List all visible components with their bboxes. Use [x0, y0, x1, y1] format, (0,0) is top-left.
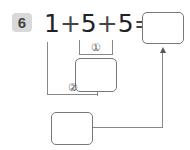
- bracket-2-bottom: [47, 94, 98, 95]
- bracket-2-left: [47, 42, 48, 95]
- operand-2: 5: [81, 9, 97, 38]
- step-2-result-box[interactable]: [51, 112, 93, 145]
- problem-number-badge: 6: [12, 13, 32, 32]
- bracket-1-left: [79, 40, 80, 55]
- operand-3: 5: [118, 9, 134, 38]
- step-1-result-box[interactable]: [75, 58, 117, 92]
- arrow-connector-vertical: [162, 52, 163, 128]
- step-2-label: ②: [65, 81, 81, 94]
- plus-sign-2: +: [97, 9, 118, 38]
- math-expression: 1+5+5=: [44, 9, 155, 38]
- plus-sign-1: +: [60, 9, 81, 38]
- operand-1: 1: [44, 9, 60, 38]
- arrow-up-icon: [160, 47, 166, 53]
- step-1-label: ①: [88, 41, 104, 54]
- arrow-connector-horizontal: [93, 127, 163, 128]
- bracket-1-right: [112, 40, 113, 55]
- final-answer-box[interactable]: [142, 12, 184, 44]
- bracket-1-bottom: [79, 54, 113, 55]
